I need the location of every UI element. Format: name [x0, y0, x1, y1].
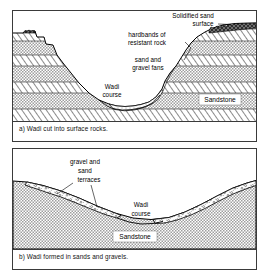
label-fans-line1: sand and: [135, 56, 162, 63]
label-sandstone-text-b: Sandstone: [119, 233, 151, 240]
label-wadi-line2: course: [102, 91, 122, 98]
panel-b-drawing: gravel and sand terraces Wadi course San…: [13, 149, 256, 249]
panel-a-caption: a) Wadi cut into surface rocks.: [13, 121, 256, 142]
label-wadi-course: Wadi course: [102, 83, 122, 98]
label-solidified-sand-line2: surface: [193, 20, 214, 27]
label-sandstone-b: Sandstone: [113, 231, 157, 242]
label-terraces-line1: gravel and: [70, 158, 100, 166]
label-solidified-sand-line1: Solidified sand: [172, 12, 214, 19]
label-terraces-line2: sand: [78, 167, 92, 174]
solidified-sand-crust-left: [23, 30, 35, 33]
panel-b-wadi-formed-in-sands-and-gravels: gravel and sand terraces Wadi course San…: [12, 148, 257, 270]
panel-a-drawing: Solidified sand surface hardbands of res…: [13, 11, 256, 121]
stratum-hardband-4: [13, 109, 256, 121]
label-wadi-line1-b: Wadi: [134, 201, 148, 208]
label-hardbands-line1: hardbands of: [128, 31, 166, 38]
label-wadi-line1: Wadi: [105, 83, 119, 90]
label-sandstone-a: Sandstone: [199, 94, 241, 105]
label-wadi-line2-b: course: [131, 210, 151, 217]
panel-a-wadi-cut-into-surface-rocks: Solidified sand surface hardbands of res…: [12, 10, 257, 142]
label-terraces-line3: terraces: [77, 176, 100, 183]
wadi-diagram-figure: Solidified sand surface hardbands of res…: [0, 0, 264, 279]
label-hardbands-line2: resistant rock: [128, 39, 167, 46]
panel-a-cross-section: Solidified sand surface hardbands of res…: [13, 11, 256, 121]
label-sandstone-text-a: Sandstone: [204, 96, 236, 103]
panel-b-cross-section: gravel and sand terraces Wadi course San…: [13, 149, 256, 249]
panel-b-caption: b) Wadi formed in sands and gravels.: [13, 249, 256, 270]
label-fans-line2: gravel fans: [132, 64, 163, 72]
